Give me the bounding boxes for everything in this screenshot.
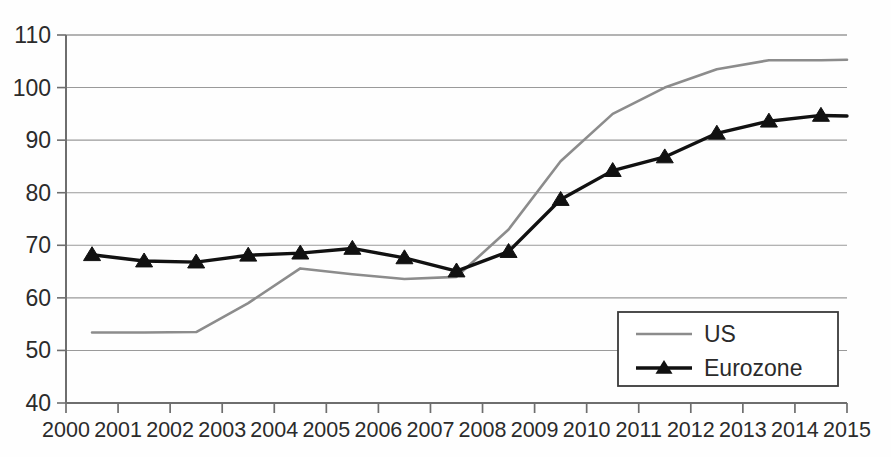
x-axis-label-2013: 2013: [719, 418, 767, 442]
y-axis-label-40: 40: [25, 390, 51, 416]
x-axis-label-2014: 2014: [771, 418, 819, 442]
y-axis-label-100: 100: [13, 75, 51, 101]
y-axis-label-80: 80: [25, 180, 51, 206]
x-axis-label-2012: 2012: [667, 418, 715, 442]
x-axis-label-2007: 2007: [407, 418, 455, 442]
y-axis-label-110: 110: [14, 22, 51, 48]
x-axis-label-2002: 2002: [146, 418, 194, 442]
x-axis-label-2004: 2004: [250, 418, 298, 442]
series-line-us: [92, 60, 847, 333]
chart-canvas: 4050607080901001102000200120022003200420…: [0, 0, 891, 457]
x-axis-label-2001: 2001: [94, 418, 142, 442]
legend-label-eurozone: Eurozone: [704, 355, 802, 381]
x-axis-label-2005: 2005: [302, 418, 350, 442]
x-axis-label-2011: 2011: [616, 418, 662, 442]
x-axis-label-2010: 2010: [563, 418, 611, 442]
data-point-marker-eurozone-9: [552, 191, 569, 205]
x-axis-label-2006: 2006: [354, 418, 402, 442]
x-axis-label-2015: 2015: [823, 418, 871, 442]
line-chart-svg: 4050607080901001102000200120022003200420…: [0, 0, 891, 457]
chart-figure: 4050607080901001102000200120022003200420…: [0, 0, 891, 457]
y-axis-label-60: 60: [25, 285, 51, 311]
y-axis-label-90: 90: [25, 127, 51, 153]
x-axis-label-2003: 2003: [198, 418, 246, 442]
y-axis-label-50: 50: [25, 337, 51, 363]
x-axis-label-2009: 2009: [511, 418, 559, 442]
x-axis-label-2000: 2000: [42, 418, 90, 442]
legend-label-us: US: [704, 321, 736, 347]
data-point-marker-eurozone-0: [84, 247, 101, 261]
y-axis-label-70: 70: [25, 232, 51, 258]
x-axis-label-2008: 2008: [459, 418, 507, 442]
